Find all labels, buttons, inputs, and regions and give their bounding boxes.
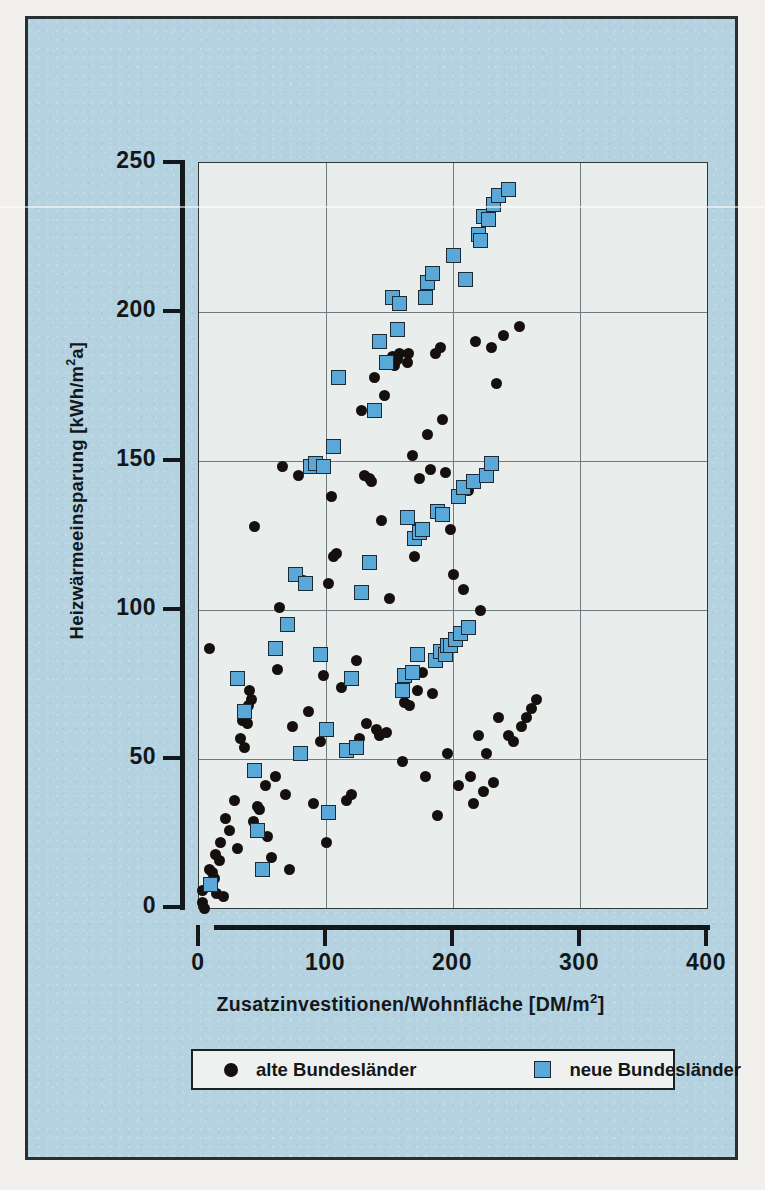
alte-bundeslaender-point [366, 476, 377, 487]
neue-bundeslaender-point [458, 272, 473, 287]
gridline-vertical-200 [453, 163, 454, 908]
neue-bundeslaender-point [354, 585, 369, 600]
y-tick-100 [163, 607, 185, 611]
x-tick-0 [196, 925, 200, 946]
alte-bundeslaender-point [242, 718, 253, 729]
neue-bundeslaender-point [280, 617, 295, 632]
alte-bundeslaender-point [254, 804, 265, 815]
alte-bundeslaender-point [318, 670, 329, 681]
alte-bundeslaender-point [321, 837, 332, 848]
alte-bundeslaender-point [531, 694, 542, 705]
y-tick-label-50: 50 [28, 743, 156, 770]
plot-area [198, 162, 708, 909]
y-tick-250 [163, 160, 185, 164]
alte-bundeslaender-point [287, 721, 298, 732]
alte-bundeslaender-point [277, 461, 288, 472]
alte-bundeslaender-point [303, 706, 314, 717]
legend-circle-marker-icon [224, 1063, 238, 1077]
alte-bundeslaender-point [260, 780, 271, 791]
alte-bundeslaender-point [491, 378, 502, 389]
neue-bundeslaender-point [372, 334, 387, 349]
y-tick-label-0: 0 [28, 892, 156, 919]
alte-bundeslaender-point [435, 342, 446, 353]
x-axis-title: Zusatzinvestitionen/Wohnfläche [DM/m2] [28, 991, 765, 1016]
alte-bundeslaender-point [346, 789, 357, 800]
alte-bundeslaender-point [384, 593, 395, 604]
alte-bundeslaender-point [445, 524, 456, 535]
neue-bundeslaender-point [501, 182, 516, 197]
gridline-horizontal-50 [199, 759, 707, 760]
gridline-horizontal-200 [199, 312, 707, 313]
y-tick-label-250: 250 [28, 147, 156, 174]
neue-bundeslaender-point [484, 456, 499, 471]
alte-bundeslaender-point [239, 742, 250, 753]
x-tick-label-100: 100 [270, 949, 380, 976]
y-axis-title: Heizwärmeeinsparung [kWh/m2a] [64, 211, 87, 771]
alte-bundeslaender-point [488, 777, 499, 788]
x-tick-label-300: 300 [524, 949, 634, 976]
x-axis-title-suffix: ] [598, 993, 605, 1015]
neue-bundeslaender-point [461, 620, 476, 635]
alte-bundeslaender-point [468, 798, 479, 809]
neue-bundeslaender-point [293, 746, 308, 761]
alte-bundeslaender-point [475, 605, 486, 616]
alte-bundeslaender-point [381, 727, 392, 738]
neue-bundeslaender-point [203, 877, 218, 892]
alte-bundeslaender-point [249, 521, 260, 532]
neue-bundeslaender-point [319, 722, 334, 737]
chart-panel: 050100150200250 0100200300400 Heizwärmee… [25, 16, 738, 1160]
neue-bundeslaender-point [390, 322, 405, 337]
neue-bundeslaender-point [446, 248, 461, 263]
gridline-vertical-100 [326, 163, 327, 908]
alte-bundeslaender-point [280, 789, 291, 800]
neue-bundeslaender-point [298, 576, 313, 591]
alte-bundeslaender-point [425, 464, 436, 475]
alte-bundeslaender-point [323, 578, 334, 589]
neue-bundeslaender-point [255, 862, 270, 877]
alte-bundeslaender-point [508, 736, 519, 747]
neue-bundeslaender-point [405, 665, 420, 680]
y-axis-title-sup: 2 [64, 359, 78, 366]
y-tick-0 [163, 905, 185, 909]
alte-bundeslaender-point [448, 569, 459, 580]
alte-bundeslaender-point [220, 813, 231, 824]
alte-bundeslaender-point [514, 321, 525, 332]
x-axis-title-text: Zusatzinvestitionen/Wohnfläche [DM/m [217, 993, 590, 1015]
alte-bundeslaender-point [437, 414, 448, 425]
neue-bundeslaender-point [237, 704, 252, 719]
alte-bundeslaender-point [498, 330, 509, 341]
alte-bundeslaender-point [453, 780, 464, 791]
alte-bundeslaender-point [412, 685, 423, 696]
x-axis-title-sup: 2 [590, 991, 598, 1006]
neue-bundeslaender-point [326, 439, 341, 454]
y-axis-title-suffix: a] [66, 342, 87, 359]
alte-bundeslaender-point [331, 548, 342, 559]
alte-bundeslaender-point [440, 467, 451, 478]
alte-bundeslaender-point [481, 748, 492, 759]
neue-bundeslaender-point [473, 233, 488, 248]
alte-bundeslaender-point [272, 664, 283, 675]
alte-bundeslaender-point [224, 825, 235, 836]
alte-bundeslaender-point [473, 730, 484, 741]
gridline-horizontal-150 [199, 461, 707, 462]
neue-bundeslaender-point [481, 212, 496, 227]
y-tick-50 [163, 756, 185, 760]
alte-bundeslaender-point [458, 584, 469, 595]
alte-bundeslaender-point [315, 736, 326, 747]
x-tick-400 [704, 925, 708, 946]
neue-bundeslaender-point [344, 671, 359, 686]
alte-bundeslaender-point [397, 756, 408, 767]
alte-bundeslaender-point [199, 903, 210, 914]
alte-bundeslaender-point [427, 688, 438, 699]
alte-bundeslaender-point [351, 655, 362, 666]
alte-bundeslaender-point [376, 515, 387, 526]
alte-bundeslaender-point [356, 405, 367, 416]
alte-bundeslaender-point [407, 450, 418, 461]
neue-bundeslaender-point [362, 555, 377, 570]
figure-canvas: 050100150200250 0100200300400 Heizwärmee… [0, 0, 765, 1190]
neue-bundeslaender-point [321, 805, 336, 820]
neue-bundeslaender-point [418, 290, 433, 305]
neue-bundeslaender-point [410, 647, 425, 662]
alte-bundeslaender-point [232, 843, 243, 854]
legend-entry-alte-bundeslaender: alte Bundesländer [224, 1051, 416, 1088]
